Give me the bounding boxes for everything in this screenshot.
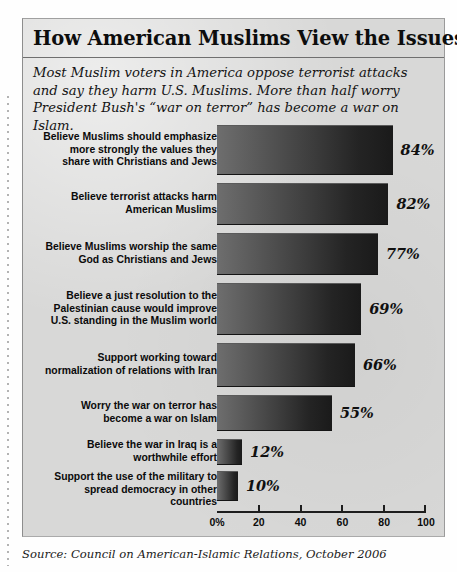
bar-row: Worry the war on terror hasbecome a war …	[23, 395, 444, 431]
page-edge-rule	[7, 96, 9, 566]
axis-tick-label: 0%	[209, 516, 224, 528]
axis-tick	[383, 505, 385, 513]
bar-chart: Believe Muslims should emphasizemore str…	[23, 121, 444, 536]
axis-tick	[258, 505, 260, 513]
bar-row-label-line: countries	[29, 496, 217, 509]
bar-value-label: 77%	[386, 245, 420, 262]
bar-row-label-line: Believe the war in Iraq is a	[29, 439, 217, 452]
bar-row-label-line: Support the use of the military to	[29, 471, 217, 484]
bar-row-label-line: normalization of relations with Iran	[29, 365, 217, 378]
bar-row: Believe the war in Iraq is aworthwhile e…	[23, 439, 444, 465]
axis-tick-label: 60	[337, 516, 349, 528]
axis-tick	[341, 505, 343, 513]
bar-track: 12%	[217, 439, 426, 465]
bar-row-label: Believe terrorist attacks harmAmerican M…	[29, 191, 217, 216]
bar-row-label-line: become a war on Islam	[29, 413, 217, 426]
title-divider	[23, 57, 444, 58]
bar-value-label: 12%	[250, 443, 284, 460]
bar-row-label: Support the use of the military tospread…	[29, 471, 217, 509]
bar-row-label: Believe a just resolution to thePalestin…	[29, 290, 217, 328]
bar-track: 55%	[217, 395, 426, 431]
bar-track: 82%	[217, 183, 426, 225]
bar-value-label: 55%	[340, 404, 374, 421]
bar-track: 66%	[217, 343, 426, 387]
bar	[217, 183, 388, 225]
axis-tick-label: 40	[295, 516, 307, 528]
bar-row: Support the use of the military tospread…	[23, 471, 444, 501]
bar-row-label-line: Believe Muslims should emphasize	[29, 131, 217, 144]
bar-row-label-line: Believe terrorist attacks harm	[29, 191, 217, 204]
bar-row-label-line: God as Christians and Jews	[29, 254, 217, 267]
bar-row-label: Worry the war on terror hasbecome a war …	[29, 400, 217, 425]
bar-row-label-line: American Muslims	[29, 204, 217, 217]
bar-row: Believe Muslims should emphasizemore str…	[23, 125, 444, 175]
axis-tick	[300, 505, 302, 513]
bar-row-label-line: Believe a just resolution to the	[29, 290, 217, 303]
bar-row-label-line: worthwhile effort	[29, 452, 217, 465]
bar-value-label: 84%	[401, 141, 435, 158]
bar-row-label: Believe the war in Iraq is aworthwhile e…	[29, 439, 217, 464]
bar-row-label: Believe Muslims should emphasizemore str…	[29, 131, 217, 169]
bar-row: Believe Muslims worship the sameGod as C…	[23, 233, 444, 275]
infographic-panel: How American Muslims View the Issues Mos…	[22, 18, 445, 537]
bar-row-label-line: U.S. standing in the Muslim world	[29, 315, 217, 328]
source-note: Source: Council on American-Islamic Rela…	[22, 547, 387, 561]
scanned-page: How American Muslims View the Issues Mos…	[0, 0, 457, 572]
bar-row: Believe a just resolution to thePalestin…	[23, 283, 444, 335]
bar	[217, 395, 332, 431]
bar-row-label-line: Believe Muslims worship the same	[29, 241, 217, 254]
bar-row-label-line: share with Christians and Jews	[29, 156, 217, 169]
bar-track: 77%	[217, 233, 426, 275]
bar-value-label: 10%	[246, 477, 280, 494]
bar-value-label: 82%	[396, 195, 430, 212]
bar-row: Support working towardnormalization of r…	[23, 343, 444, 387]
bar-row-label-line: Palestinian cause would improve	[29, 303, 217, 316]
bar	[217, 439, 242, 465]
bar-row-label-line: more strongly the values they	[29, 144, 217, 157]
bar-row-label: Believe Muslims worship the sameGod as C…	[29, 241, 217, 266]
bar-track: 69%	[217, 283, 426, 335]
headline: How American Muslims View the Issues	[33, 27, 433, 50]
bar	[217, 283, 361, 335]
bar-row-label-line: Worry the war on terror has	[29, 400, 217, 413]
bar	[217, 471, 238, 501]
bar-row-label: Support working towardnormalization of r…	[29, 352, 217, 377]
bar-track: 84%	[217, 125, 426, 175]
axis-tick-label: 100	[417, 516, 435, 528]
bar-row: Believe terrorist attacks harmAmerican M…	[23, 183, 444, 225]
axis-tick	[424, 505, 426, 513]
bar-value-label: 69%	[369, 300, 403, 317]
bar-value-label: 66%	[363, 356, 397, 373]
bar	[217, 233, 378, 275]
bar-track: 10%	[217, 471, 426, 501]
axis-tick-label: 80	[378, 516, 390, 528]
bar	[217, 343, 355, 387]
bar	[217, 125, 393, 175]
axis-tick-label: 20	[253, 516, 265, 528]
bar-row-label-line: spread democracy in other	[29, 484, 217, 497]
bar-row-label-line: Support working toward	[29, 352, 217, 365]
axis-line	[217, 511, 426, 513]
x-axis: 0%20406080100	[217, 511, 426, 537]
